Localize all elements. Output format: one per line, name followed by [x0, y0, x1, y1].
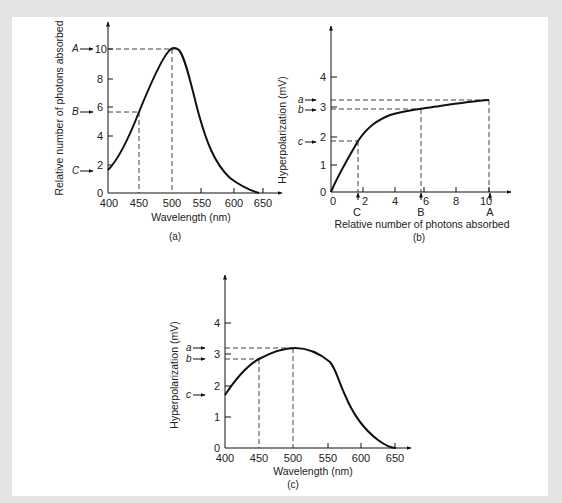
- chart-c-ytick: 4: [214, 317, 220, 329]
- chart-c: 0 1 2 3 4 400 450 500 550 600 650 Wavele…: [168, 275, 411, 490]
- chart-c-ytick: 3: [214, 348, 220, 360]
- chart-c-ylabel: Hyperpolarization (mV): [168, 321, 180, 428]
- chart-b-ymarker-c: c: [298, 136, 303, 147]
- chart-a-marker-B: B: [72, 106, 79, 117]
- chart-c-curve: [225, 348, 396, 448]
- chart-c-xtick: 450: [250, 452, 268, 464]
- chart-b-xmarker-B: B: [417, 206, 424, 218]
- chart-a-ytick: 10: [95, 43, 107, 55]
- chart-c-xtick: 550: [319, 452, 337, 464]
- chart-a-caption: (a): [169, 231, 181, 242]
- chart-a-xtick: 650: [254, 197, 272, 209]
- chart-a-xlabel: Wavelength (nm): [151, 211, 231, 223]
- chart-c-ytick: 1: [214, 411, 220, 423]
- chart-c-y-ticks: [225, 323, 231, 417]
- chart-b-ymarker-b: b: [298, 104, 304, 115]
- chart-a-xtick: 600: [225, 197, 243, 209]
- chart-a-xtick: 450: [130, 197, 148, 209]
- chart-b-ytick: 0: [320, 186, 326, 198]
- chart-a-y-ticks: [108, 49, 113, 165]
- chart-b-ytick: 3: [320, 101, 326, 113]
- chart-b-xtick: 8: [453, 195, 459, 207]
- chart-b-y-ticks: [331, 77, 337, 165]
- chart-b-xlabel: Relative number of photons absorbed: [334, 218, 509, 230]
- chart-b-xtick: 0: [330, 195, 336, 207]
- chart-b-caption: (b): [413, 232, 425, 243]
- chart-a-ylabel: Relative number of photons absorbed: [53, 20, 65, 195]
- chart-a-ytick: 4: [97, 130, 103, 142]
- chart-b-ytick: 1: [320, 159, 326, 171]
- chart-c-marker-c: c: [186, 389, 191, 400]
- chart-b-ylabel: Hyperpolarization (mV): [276, 76, 288, 183]
- chart-a-ytick: 2: [97, 159, 103, 171]
- chart-a-ytick: 8: [97, 73, 103, 85]
- chart-c-marker-b: b: [186, 353, 192, 364]
- chart-b-xtick: 2: [362, 195, 368, 207]
- chart-c-ytick: 2: [214, 380, 220, 392]
- chart-b-xmarker-A: A: [486, 206, 494, 218]
- chart-c-marker-a: a: [186, 342, 192, 353]
- chart-a-xtick: 500: [163, 197, 181, 209]
- chart-b-ytick: 4: [320, 71, 326, 83]
- chart-b-xtick: 4: [392, 195, 398, 207]
- figure-canvas: 0 2 4 6 8 10 400 450 500 550 600 650 Wav…: [0, 0, 562, 503]
- chart-b-x-ticks: [363, 187, 489, 192]
- chart-c-xtick: 400: [216, 452, 234, 464]
- chart-a-marker-C: C: [72, 165, 80, 176]
- chart-c-xlabel: Wavelength (nm): [273, 465, 353, 477]
- chart-a-curve: [108, 48, 259, 193]
- chart-c-xtick: 650: [386, 452, 404, 464]
- chart-c-xtick: 500: [284, 452, 302, 464]
- chart-b-xmarker-C: C: [353, 206, 361, 218]
- chart-c-guides: [225, 348, 293, 448]
- chart-a-marker-A: A: [71, 43, 79, 54]
- chart-a-xtick: 400: [100, 197, 118, 209]
- chart-b-curve: [331, 100, 489, 192]
- chart-a-xtick: 550: [193, 197, 211, 209]
- chart-a-guides: [108, 49, 172, 193]
- chart-a-ytick: 6: [97, 101, 103, 113]
- chart-b-ytick: 2: [320, 131, 326, 143]
- chart-c-caption: (c): [287, 479, 299, 490]
- chart-a: 0 2 4 6 8 10 400 450 500 550 600 650 Wav…: [53, 20, 282, 242]
- chart-c-xtick: 600: [352, 452, 370, 464]
- chart-b: 0 1 2 3 4 0 2 4 6 8 10 C B A Relative nu…: [276, 26, 511, 243]
